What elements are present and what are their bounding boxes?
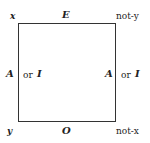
edge-bottom-label: O xyxy=(62,126,71,136)
edge-right-a: A xyxy=(105,69,113,79)
corner-bottom-right: not-x xyxy=(116,126,139,136)
edge-top-label: E xyxy=(62,10,70,20)
edge-left-b: I xyxy=(37,69,42,79)
corner-top-left: x xyxy=(10,11,15,21)
edge-left-or: or xyxy=(23,70,33,80)
edge-right-or: or xyxy=(121,70,131,80)
edge-right-b: I xyxy=(135,69,140,79)
corner-bottom-left: y xyxy=(7,126,12,136)
corner-top-right: not-y xyxy=(116,11,139,21)
edge-left-a: A xyxy=(6,69,14,79)
